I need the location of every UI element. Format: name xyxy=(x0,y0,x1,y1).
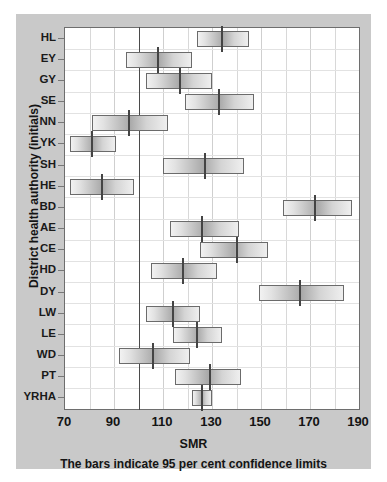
row-gridline xyxy=(65,155,359,156)
point-estimate-marker xyxy=(172,301,174,327)
confidence-interval-bar xyxy=(283,200,352,216)
x-axis-title: SMR xyxy=(16,437,371,451)
row-gridline xyxy=(65,49,359,50)
y-tick-mark xyxy=(58,376,64,377)
confidence-interval-bar xyxy=(200,242,269,258)
x-axis-tick-label-90: 90 xyxy=(106,414,120,429)
x-axis-tick-label-190: 190 xyxy=(347,414,369,429)
y-tick-mark xyxy=(58,165,64,166)
point-estimate-marker xyxy=(218,89,220,115)
y-axis-tick-label-se: SE xyxy=(41,94,56,106)
point-estimate-marker xyxy=(101,174,103,200)
y-tick-mark xyxy=(58,228,64,229)
x-axis-tick-label-130: 130 xyxy=(200,414,222,429)
y-axis-tick-label-sh: SH xyxy=(40,158,56,170)
y-tick-mark xyxy=(58,292,64,293)
y-axis-tick-label-pt: PT xyxy=(41,369,56,381)
y-tick-mark xyxy=(58,143,64,144)
point-estimate-marker xyxy=(204,153,206,179)
x-axis-tick-label-110: 110 xyxy=(152,414,173,429)
row-gridline xyxy=(65,113,359,114)
y-tick-mark xyxy=(58,59,64,60)
y-tick-mark xyxy=(58,122,64,123)
point-estimate-marker xyxy=(299,280,301,306)
y-axis-tick-label-hd: HD xyxy=(39,263,56,275)
y-tick-mark xyxy=(58,80,64,81)
y-axis-tick-label-wd: WD xyxy=(37,348,56,360)
row-gridline xyxy=(65,92,359,93)
y-tick-mark xyxy=(58,334,64,335)
point-estimate-marker xyxy=(201,216,203,242)
confidence-interval-bar xyxy=(197,31,248,47)
y-axis-tick-label-gy: GY xyxy=(39,73,56,85)
y-tick-mark xyxy=(58,270,64,271)
confidence-interval-bar xyxy=(70,136,117,152)
y-axis-tick-label-hl: HL xyxy=(41,31,56,43)
y-axis-tick-label-bd: BD xyxy=(39,200,56,212)
y-axis-tick-label-lw: LW xyxy=(39,306,56,318)
row-gridline xyxy=(65,134,359,135)
y-tick-mark xyxy=(58,397,64,398)
y-axis-tick-label-yk: YK xyxy=(40,136,56,148)
y-tick-mark xyxy=(58,313,64,314)
point-estimate-marker xyxy=(152,343,154,369)
plot-area xyxy=(64,27,360,410)
y-axis-tick-label-nn: NN xyxy=(39,115,56,127)
figure-caption: The bars indicate 95 per cent confidence… xyxy=(16,457,371,471)
confidence-interval-bar xyxy=(151,263,217,279)
confidence-interval-bar xyxy=(126,52,192,68)
x-axis-tick-label-150: 150 xyxy=(249,414,271,429)
row-gridline xyxy=(65,303,359,304)
row-gridline xyxy=(65,388,359,389)
point-estimate-marker xyxy=(179,68,181,94)
point-estimate-marker xyxy=(182,258,184,284)
point-estimate-marker xyxy=(157,47,159,73)
confidence-interval-bar xyxy=(170,221,239,237)
y-tick-mark xyxy=(58,38,64,39)
y-tick-mark xyxy=(58,101,64,102)
point-estimate-marker xyxy=(209,364,211,390)
point-estimate-marker xyxy=(314,195,316,221)
x-axis-tick-label-170: 170 xyxy=(298,414,320,429)
y-axis-tick-label-he: HE xyxy=(40,179,56,191)
row-gridline xyxy=(65,261,359,262)
y-axis-tick-label-yrha: YRHA xyxy=(23,390,56,402)
y-axis-tick-label-ce: CE xyxy=(40,242,56,254)
figure-panel: District health authority (initials) SMR… xyxy=(16,14,371,469)
point-estimate-marker xyxy=(201,385,203,411)
point-estimate-marker xyxy=(196,322,198,348)
y-axis-tick-label-ae: AE xyxy=(40,221,56,233)
y-tick-mark xyxy=(58,207,64,208)
y-tick-mark xyxy=(58,186,64,187)
point-estimate-marker xyxy=(221,26,223,52)
point-estimate-marker xyxy=(236,237,238,263)
row-gridline xyxy=(65,282,359,283)
y-axis-tick-label-ey: EY xyxy=(41,52,56,64)
confidence-interval-bar xyxy=(92,115,168,131)
row-gridline xyxy=(65,346,359,347)
y-axis-tick-label-le: LE xyxy=(41,327,56,339)
confidence-interval-bar xyxy=(259,285,345,301)
x-axis-tick-label-70: 70 xyxy=(57,414,71,429)
row-gridline xyxy=(65,240,359,241)
y-tick-mark xyxy=(58,249,64,250)
row-gridline xyxy=(65,324,359,325)
y-axis-tick-label-dy: DY xyxy=(40,285,56,297)
row-gridline xyxy=(65,367,359,368)
y-tick-mark xyxy=(58,355,64,356)
point-estimate-marker xyxy=(128,110,130,136)
confidence-interval-bar xyxy=(119,348,190,364)
point-estimate-marker xyxy=(91,131,93,157)
row-gridline xyxy=(65,70,359,71)
row-gridline xyxy=(65,176,359,177)
